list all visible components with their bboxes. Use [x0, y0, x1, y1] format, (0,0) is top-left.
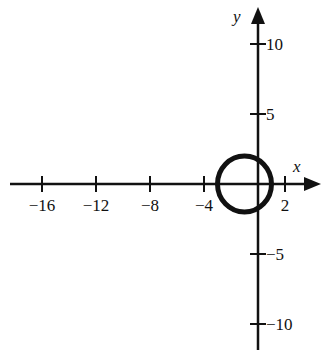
y-axis-arrow-icon	[251, 7, 265, 24]
x-tick-label: −12	[83, 196, 110, 215]
y-tick-label: 10	[266, 35, 283, 54]
y-tick-label: −10	[266, 315, 293, 334]
x-tick-label: −16	[29, 196, 56, 215]
x-tick-label: −4	[195, 196, 214, 215]
x-axis-label: x	[292, 157, 301, 176]
axes	[10, 7, 321, 350]
y-tick-label: −5	[266, 245, 284, 264]
y-tick-label: 5	[266, 105, 275, 124]
x-axis-arrow-icon	[304, 177, 321, 191]
tick-labels: xy−16−12−8−42105−5−10	[29, 7, 301, 334]
y-axis-label: y	[231, 7, 241, 26]
x-tick-label: 2	[281, 196, 290, 215]
x-tick-label: −8	[141, 196, 159, 215]
coordinate-plane: xy−16−12−8−42105−5−10	[0, 0, 321, 357]
